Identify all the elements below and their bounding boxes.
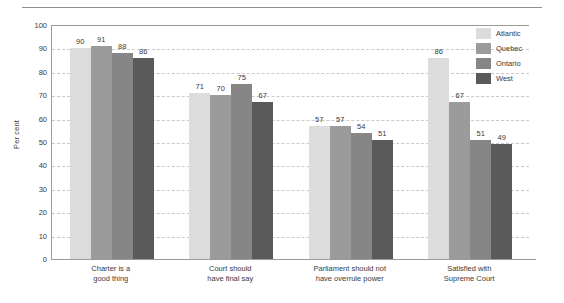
y-axis-tick-label: 0 xyxy=(3,255,47,264)
bar-group: 57575451 xyxy=(291,26,411,259)
y-axis-tick-label: 10 xyxy=(3,231,47,240)
bar[interactable]: 90 xyxy=(70,48,91,259)
legend-swatch xyxy=(476,58,491,69)
bar-value-label: 57 xyxy=(336,115,344,124)
bar-value-label: 51 xyxy=(477,129,485,138)
bar-value-label: 57 xyxy=(315,115,323,124)
y-axis-tick-label: 50 xyxy=(3,138,47,147)
bar[interactable]: 88 xyxy=(112,53,133,259)
legend-item[interactable]: Quebec xyxy=(476,41,560,55)
bar-group-bars: 57575451 xyxy=(291,26,411,259)
bar-slot: 70 xyxy=(210,26,231,259)
bar[interactable]: 67 xyxy=(252,102,273,259)
bar[interactable]: 91 xyxy=(91,46,112,259)
bar[interactable]: 67 xyxy=(449,102,470,259)
bar[interactable]: 51 xyxy=(470,140,491,259)
legend-label: Quebec xyxy=(496,44,522,53)
bar[interactable]: 86 xyxy=(133,58,154,259)
bar-slot: 67 xyxy=(252,26,273,259)
bar[interactable]: 57 xyxy=(330,126,351,259)
bar-value-label: 54 xyxy=(357,122,365,131)
y-axis-tick-labels: 1009080706050403020100 xyxy=(0,25,47,259)
x-axis-category-label: Court should have final say xyxy=(171,264,291,283)
bar-slot: 86 xyxy=(428,26,449,259)
header-divider xyxy=(22,7,542,8)
bar-slot: 54 xyxy=(351,26,372,259)
bar-slot: 57 xyxy=(330,26,351,259)
bar[interactable]: 86 xyxy=(428,58,449,259)
legend-swatch xyxy=(476,43,491,54)
bar-value-label: 86 xyxy=(435,47,443,56)
bar-slot: 71 xyxy=(189,26,210,259)
bar-value-label: 70 xyxy=(217,84,225,93)
bar-group-bars: 90918886 xyxy=(52,26,172,259)
bar-slot: 90 xyxy=(70,26,91,259)
bar-slot: 91 xyxy=(91,26,112,259)
x-axis-category-label: Satisfied with Supreme Court xyxy=(410,264,530,283)
x-axis-category-label: Charter is a good thing xyxy=(51,264,171,283)
legend-label: Ontario xyxy=(496,59,521,68)
legend-swatch xyxy=(476,73,491,84)
legend-swatch xyxy=(476,28,491,39)
y-axis-tick-label: 90 xyxy=(3,44,47,53)
bar[interactable]: 71 xyxy=(189,93,210,259)
bar[interactable]: 75 xyxy=(231,84,252,260)
bar-group: 90918886 xyxy=(52,26,172,259)
bar-value-label: 67 xyxy=(456,91,464,100)
bar-value-label: 75 xyxy=(238,73,246,82)
bar-chart-figure: Per cent 1009080706050403020100 90918886… xyxy=(0,0,564,303)
legend-label: Atlantic xyxy=(496,29,521,38)
y-axis-tick-label: 70 xyxy=(3,91,47,100)
legend-item[interactable]: West xyxy=(476,71,560,85)
x-axis-baseline xyxy=(51,259,536,260)
bar-slot: 67 xyxy=(449,26,470,259)
bar-slot: 57 xyxy=(309,26,330,259)
y-axis-tick-label: 60 xyxy=(3,114,47,123)
y-axis-tick-label: 30 xyxy=(3,184,47,193)
bar-value-label: 86 xyxy=(139,47,147,56)
y-axis-tick-label: 40 xyxy=(3,161,47,170)
y-axis-tick-label: 20 xyxy=(3,208,47,217)
bar-value-label: 67 xyxy=(259,91,267,100)
legend-item[interactable]: Ontario xyxy=(476,56,560,70)
bar[interactable]: 51 xyxy=(372,140,393,259)
x-axis-category-label: Parliament should not have overrule powe… xyxy=(290,264,410,283)
y-axis-tick-label: 100 xyxy=(3,21,47,30)
plot-area: 90918886717075675757545186675149 xyxy=(51,25,529,259)
bar-value-label: 49 xyxy=(498,133,506,142)
legend-item[interactable]: Atlantic xyxy=(476,26,560,40)
legend: AtlanticQuebecOntarioWest xyxy=(476,26,560,86)
bar-group-bars: 71707567 xyxy=(172,26,292,259)
legend-label: West xyxy=(496,74,513,83)
bar-slot: 51 xyxy=(372,26,393,259)
bar-value-label: 88 xyxy=(118,42,126,51)
bar-slot: 86 xyxy=(133,26,154,259)
y-axis-tick-label: 80 xyxy=(3,67,47,76)
bar-value-label: 90 xyxy=(76,37,84,46)
bar-value-label: 51 xyxy=(378,129,386,138)
bar-group: 71707567 xyxy=(172,26,292,259)
bar[interactable]: 49 xyxy=(491,144,512,259)
bar[interactable]: 54 xyxy=(351,133,372,259)
bar[interactable]: 57 xyxy=(309,126,330,259)
bar-value-label: 91 xyxy=(97,35,105,44)
bar-value-label: 71 xyxy=(196,82,204,91)
bar-slot: 88 xyxy=(112,26,133,259)
bar[interactable]: 70 xyxy=(210,95,231,259)
bar-slot: 75 xyxy=(231,26,252,259)
